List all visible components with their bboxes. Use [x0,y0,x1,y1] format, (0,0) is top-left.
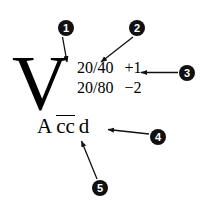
acuity-correction: −2 [124,80,141,96]
callout-marker-1[interactable]: 1 [58,20,74,36]
modality-symbol-v: V [12,44,68,122]
notation-prefix-a: A [37,116,52,137]
callout-marker-5[interactable]: 5 [92,180,108,196]
acuity-measurement: 20/80 [77,80,113,96]
acuity-row: 20/80−2 [77,80,141,96]
acuity-correction: +1 [124,60,141,76]
notation-overlined-cc: cc [56,115,75,137]
acuity-row: 20/40+1 [77,60,141,76]
callout-marker-2[interactable]: 2 [129,20,145,36]
callout-marker-4[interactable]: 4 [150,129,166,145]
leader-line-5 [82,141,98,179]
acuity-measurement: 20/40 [77,60,113,76]
leader-line-4 [108,130,149,135]
bottom-notation-line: Accd [37,115,89,137]
notation-suffix-d: d [79,116,90,137]
callout-marker-3[interactable]: 3 [179,65,195,81]
figure-canvas: V 20/40+1 20/80−2 Accd 1 2 3 4 5 [0,0,200,208]
